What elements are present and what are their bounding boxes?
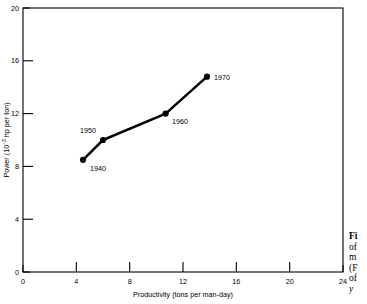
x-axis-label: Productivity (tons per man-day) xyxy=(133,290,233,299)
data-point-1970 xyxy=(204,74,210,80)
caption-line: Fi xyxy=(349,231,367,242)
caption-line: y xyxy=(349,284,367,295)
y-tick-label: 0 xyxy=(15,268,19,277)
y-tick-label: 12 xyxy=(11,109,19,118)
x-tick-label: 20 xyxy=(286,277,294,286)
line-chart: 0 4 8 12 16 20 0 4 8 12 16 20 24 xyxy=(0,0,367,304)
point-label-1960: 1960 xyxy=(172,117,188,126)
caption-line: of xyxy=(349,242,367,253)
x-tick-label: 12 xyxy=(179,277,187,286)
x-tick-label: 8 xyxy=(128,277,132,286)
x-tick-label: 4 xyxy=(74,277,78,286)
y-axis-label-tail: hp per ton) xyxy=(2,102,11,139)
x-tick-label: 24 xyxy=(339,277,347,286)
y-tick-label: 20 xyxy=(11,4,19,13)
y-tick-label: 16 xyxy=(11,56,19,65)
chart-background xyxy=(0,0,367,304)
caption-line: of xyxy=(349,273,367,284)
data-point-1960 xyxy=(163,111,169,117)
figure-root: 0 4 8 12 16 20 0 4 8 12 16 20 24 xyxy=(0,0,367,304)
y-tick-label: 8 xyxy=(15,162,19,171)
x-tick-label: 16 xyxy=(232,277,240,286)
y-tick-label: 4 xyxy=(15,215,19,224)
figure-caption: Fi of m (F of y xyxy=(349,231,367,295)
caption-line: (F xyxy=(349,263,367,274)
point-label-1950: 1950 xyxy=(80,126,96,135)
data-point-1940 xyxy=(80,157,86,163)
data-point-1950 xyxy=(100,137,106,143)
point-label-1940: 1940 xyxy=(90,164,106,173)
point-label-1970: 1970 xyxy=(214,73,230,82)
x-tick-label: 0 xyxy=(21,277,25,286)
caption-line: m xyxy=(349,252,367,263)
y-axis-label: Power (10−3 hp per ton) xyxy=(1,102,11,177)
y-axis-label-lead: Power (10 xyxy=(2,145,11,178)
